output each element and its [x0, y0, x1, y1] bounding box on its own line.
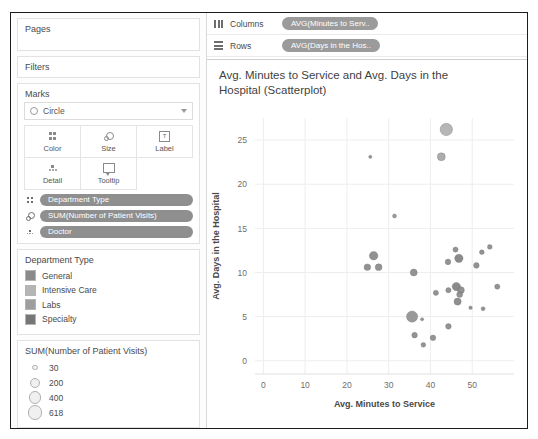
color-legend-item[interactable]: Intensive Care — [25, 285, 192, 296]
marks-button-size-label: Size — [101, 144, 116, 153]
size-legend-item-value: 618 — [49, 408, 63, 418]
color-legend-item[interactable]: General — [25, 270, 192, 281]
scatter-point[interactable] — [481, 307, 485, 311]
size-legend-circle — [25, 378, 45, 388]
color-legend-title: Department Type — [25, 255, 192, 265]
scatter-point[interactable] — [474, 263, 480, 269]
tableau-worksheet: Pages Filters Marks Circle Color — [10, 12, 528, 429]
scatter-point[interactable] — [455, 254, 463, 262]
scatter-point[interactable] — [430, 335, 436, 341]
marks-button-tooltip[interactable]: Tooltip — [81, 158, 137, 190]
marks-card: Marks Circle Color Size — [17, 83, 200, 244]
marks-button-size[interactable]: Size — [81, 126, 137, 158]
rows-pill[interactable]: AVG(Days in the Hos.. — [282, 39, 380, 52]
scatter-point[interactable] — [454, 298, 461, 305]
color-legend-item-label: General — [42, 271, 72, 281]
scatter-point[interactable] — [420, 318, 423, 321]
columns-pill[interactable]: AVG(Minutes to Serv.. — [282, 17, 378, 30]
size-legend-item[interactable]: 200 — [25, 376, 192, 389]
scatterplot[interactable]: 051015202501020304050Avg. Minutes to Ser… — [207, 112, 523, 428]
size-legend-circle — [25, 405, 45, 419]
marks-button-color[interactable]: Color — [25, 126, 81, 158]
marks-button-color-label: Color — [44, 144, 62, 153]
scatter-point[interactable] — [410, 269, 417, 276]
size-legend: SUM(Number of Patient Visits) 3020040061… — [17, 340, 200, 428]
scatter-point[interactable] — [446, 324, 452, 330]
x-axis-title: Avg. Minutes to Service — [334, 399, 435, 409]
scatter-point[interactable] — [469, 306, 473, 310]
size-legend-item[interactable]: 618 — [25, 406, 192, 419]
marks-pill-color[interactable]: Department Type — [24, 194, 193, 206]
scatter-point[interactable] — [445, 259, 451, 265]
scatter-point[interactable] — [393, 214, 397, 218]
color-legend: Department Type GeneralIntensive CareLab… — [17, 249, 200, 335]
view-panel: Columns AVG(Minutes to Serv.. Rows AVG(D… — [207, 13, 527, 428]
size-legend-item[interactable]: 400 — [25, 391, 192, 404]
detail-icon — [24, 230, 36, 235]
scatter-point[interactable] — [479, 250, 484, 255]
marks-pill-size-label: SUM(Number of Patient Visits) — [40, 210, 193, 222]
label-icon: T — [159, 130, 170, 142]
columns-shelf[interactable]: Columns AVG(Minutes to Serv.. — [207, 13, 527, 35]
columns-icon — [213, 20, 224, 28]
marks-card-title: Marks — [18, 84, 199, 102]
y-tick-label: 10 — [238, 268, 248, 278]
scatter-point[interactable] — [453, 247, 458, 252]
marks-pill-size[interactable]: SUM(Number of Patient Visits) — [24, 210, 193, 222]
x-tick-label: 40 — [426, 380, 436, 390]
rows-shelf-label: Rows — [230, 41, 276, 51]
rows-shelf[interactable]: Rows AVG(Days in the Hos.. — [207, 35, 527, 57]
scatter-point[interactable] — [440, 123, 452, 135]
scatter-point[interactable] — [375, 264, 382, 271]
scatter-point[interactable] — [457, 292, 463, 298]
scatter-point[interactable] — [369, 155, 372, 158]
scatter-point[interactable] — [433, 290, 438, 295]
scatter-point[interactable] — [406, 311, 417, 322]
size-legend-circle — [25, 391, 45, 403]
scatter-point[interactable] — [369, 251, 378, 260]
color-legend-item-label: Labs — [42, 300, 60, 310]
size-icon — [24, 212, 36, 220]
scatter-point[interactable] — [364, 264, 371, 271]
y-tick-label: 15 — [238, 224, 248, 234]
chart-view[interactable]: Avg. Minutes to Service and Avg. Days in… — [207, 59, 527, 428]
marks-buttons: Color Size T Label — [24, 125, 193, 190]
filters-card[interactable]: Filters — [17, 56, 200, 78]
x-tick-label: 10 — [300, 380, 310, 390]
mark-type-value: Circle — [43, 106, 65, 116]
color-legend-item[interactable]: Labs — [25, 299, 192, 310]
color-legend-item-label: Intensive Care — [42, 285, 97, 295]
scatter-point[interactable] — [412, 332, 418, 338]
marks-button-detail[interactable]: Detail — [25, 158, 81, 190]
color-swatch — [25, 299, 36, 310]
size-legend-item-value: 400 — [49, 393, 63, 403]
scatter-point[interactable] — [437, 153, 445, 161]
marks-pill-detail[interactable]: Doctor — [24, 226, 193, 238]
marks-button-label[interactable]: T Label — [137, 126, 193, 158]
x-tick-label: 20 — [342, 380, 352, 390]
circle-icon — [30, 107, 38, 115]
rows-icon — [213, 41, 224, 50]
scatterplot-svg[interactable]: 051015202501020304050Avg. Minutes to Ser… — [207, 112, 524, 422]
x-tick-label: 0 — [261, 380, 266, 390]
marks-button-tooltip-label: Tooltip — [98, 176, 120, 185]
scatter-point[interactable] — [421, 342, 426, 347]
size-legend-item-value: 200 — [49, 378, 63, 388]
chevron-down-icon[interactable] — [181, 109, 187, 113]
pages-card[interactable]: Pages — [17, 18, 200, 51]
color-swatch — [25, 314, 36, 325]
color-legend-item-label: Specialty — [42, 314, 77, 324]
pages-card-title: Pages — [18, 19, 199, 38]
size-legend-item[interactable]: 30 — [25, 361, 192, 374]
color-legend-item[interactable]: Specialty — [25, 314, 192, 325]
scatter-point[interactable] — [487, 244, 492, 249]
scatter-point[interactable] — [446, 288, 451, 293]
mark-type-dropdown[interactable]: Circle — [24, 102, 193, 120]
color-swatch — [25, 270, 36, 281]
size-legend-circle — [25, 365, 45, 371]
detail-icon — [49, 162, 57, 174]
y-axis-title: Avg. Days in the Hospital — [211, 192, 221, 300]
x-tick-label: 50 — [467, 380, 477, 390]
scatter-point[interactable] — [495, 284, 500, 289]
x-tick-label: 30 — [384, 380, 394, 390]
